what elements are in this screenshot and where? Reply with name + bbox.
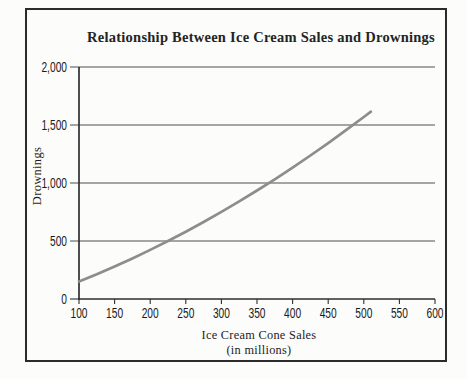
- x-tick-label: 400: [284, 305, 301, 321]
- y-tick-label: 1,000: [41, 175, 67, 191]
- plot-area: 05001,0001,5002,000100150200250300350400…: [25, 8, 447, 362]
- x-tick-label: 250: [177, 305, 194, 321]
- series-line-drownings: [79, 112, 371, 282]
- x-tick-label: 300: [213, 305, 230, 321]
- x-axis-label: Ice Cream Cone Sales (in millions): [79, 328, 439, 357]
- x-tick-label: 200: [142, 305, 159, 321]
- x-tick-label: 550: [391, 305, 408, 321]
- x-tick-label: 100: [70, 305, 87, 321]
- x-axis-label-line1: Ice Cream Cone Sales: [79, 328, 439, 343]
- y-tick-label: 2,000: [41, 59, 67, 75]
- y-tick-label: 1,500: [41, 117, 67, 133]
- x-axis-label-line2: (in millions): [79, 343, 439, 358]
- chart-figure: Relationship Between Ice Cream Sales and…: [25, 8, 447, 362]
- x-tick-label: 150: [106, 305, 123, 321]
- x-tick-label: 600: [426, 305, 443, 321]
- x-tick-label: 450: [320, 305, 337, 321]
- y-tick-label: 500: [50, 233, 67, 249]
- x-tick-label: 350: [248, 305, 265, 321]
- x-tick-label: 500: [355, 305, 372, 321]
- y-tick-label: 0: [61, 291, 67, 307]
